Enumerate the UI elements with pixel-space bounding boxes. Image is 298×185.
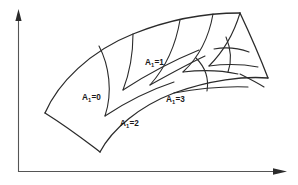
outline-bottom-arc-left (45, 113, 100, 152)
cell-label-a1-0-value: 0 (96, 93, 101, 102)
mesh-diagram: A1=0 A1=1 A1=2 A1=3 (0, 0, 298, 185)
divider-5 (209, 13, 240, 66)
cell-label-a1-1-value: 1 (159, 58, 164, 67)
mid-curve-5 (183, 71, 238, 74)
refine-split-4 (240, 74, 264, 87)
cell-label-a1-3-value: 3 (180, 95, 185, 104)
divider-1 (99, 46, 109, 116)
refine-split-2 (214, 48, 249, 52)
refine-split-1 (226, 37, 230, 72)
vertical-axis-arrow-icon (15, 9, 21, 21)
cell-label-a1-2-value: 2 (134, 119, 139, 128)
cell-label-a1-1: A1=1 (124, 58, 181, 68)
cell-label-a1-3: A1=3 (145, 95, 202, 105)
outline-right-cap (240, 13, 268, 78)
divider-4 (183, 14, 213, 72)
mesh-outline-group (45, 13, 268, 152)
mid-curve-6 (209, 65, 258, 67)
axes-group (15, 9, 287, 175)
figure-canvas: A1=0 A1=1 A1=2 A1=3 (0, 0, 298, 185)
cell-label-a1-0: A1=0 (61, 93, 118, 103)
divider-3 (150, 20, 180, 85)
horizontal-axis-arrow-icon (273, 168, 287, 175)
